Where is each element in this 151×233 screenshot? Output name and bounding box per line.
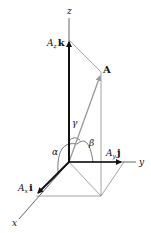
construction-line-zk-to-A [69, 40, 101, 72]
y-axis-label: y [138, 157, 145, 167]
component-x-arrow [38, 162, 69, 193]
component-z-label: Azk [46, 37, 66, 49]
angle-gamma-label: γ [72, 118, 78, 128]
z-axis-label: z [66, 6, 72, 16]
vector-A-label: A [102, 64, 111, 75]
angle-beta-label: β [88, 138, 94, 148]
component-x-label: Axi [17, 182, 33, 194]
angle-gamma-arc [69, 138, 80, 141]
x-axis-label: x [12, 218, 17, 228]
component-y-label: Ayj [105, 147, 121, 160]
direction-angles-diagram: z y x A Azk Ayj Axi γ β α [0, 0, 151, 233]
construction-line-yj-to-projection [101, 162, 124, 196]
angle-alpha-label: α [52, 147, 58, 157]
construction-line-origin-to-projection [69, 162, 101, 196]
